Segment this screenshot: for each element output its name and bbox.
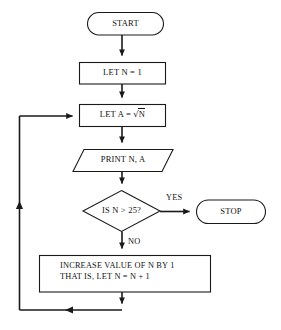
- loop-bottom-arrowhead-icon: [65, 306, 73, 313]
- increase-node-shape: [40, 256, 211, 293]
- decision-node-shape: [83, 191, 160, 232]
- let-n-node-shape: [80, 63, 166, 85]
- print-node-shape: [73, 150, 173, 172]
- flowchart-canvas: START LET N = 1 LET A = √N PRINT N, A IS…: [0, 0, 281, 330]
- let-a-node-shape: [80, 105, 166, 127]
- flowchart-svg: [0, 0, 281, 330]
- loop-left-arrowhead-icon: [16, 201, 23, 209]
- start-node-shape: [88, 13, 164, 36]
- stop-node-shape: [197, 200, 266, 224]
